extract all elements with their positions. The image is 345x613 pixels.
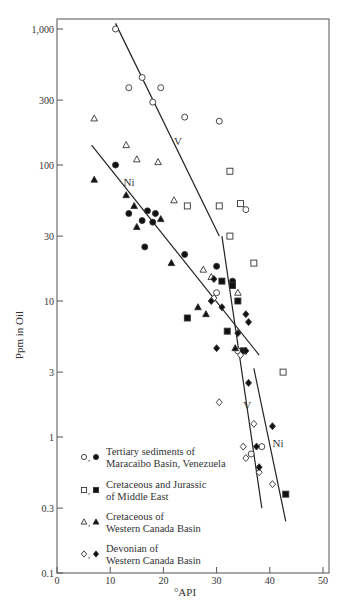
square-marker xyxy=(216,203,222,209)
triangle-marker xyxy=(123,142,130,148)
circle-marker xyxy=(182,251,188,257)
triangle-marker xyxy=(203,311,210,317)
circle-marker xyxy=(81,454,86,459)
circle-marker xyxy=(126,85,132,91)
triangle-marker xyxy=(93,519,99,524)
diamond-marker xyxy=(243,455,249,462)
circle-marker xyxy=(142,244,148,250)
legend: ,Tertiary sediments ofMaracaibo Basin, V… xyxy=(81,446,226,566)
y-tick-label: 1,000 xyxy=(32,24,55,35)
trend-label: Ni xyxy=(272,437,283,449)
circle-marker xyxy=(248,451,254,457)
y-tick-label: 30 xyxy=(44,231,54,242)
triangle-marker xyxy=(235,289,242,295)
circle-marker xyxy=(150,99,156,105)
square-marker xyxy=(219,278,225,284)
diamond-marker xyxy=(219,304,225,311)
triangle-marker xyxy=(91,176,98,182)
square-marker xyxy=(81,487,86,492)
square-marker xyxy=(227,233,233,239)
diamond-marker xyxy=(243,311,249,318)
svg-text:,: , xyxy=(88,486,90,496)
x-tick-label: 20 xyxy=(158,575,168,586)
diamond-marker xyxy=(93,551,98,557)
square-marker xyxy=(93,487,98,492)
y-tick-label: 100 xyxy=(39,160,54,171)
triangle-marker xyxy=(195,304,202,310)
circle-marker xyxy=(126,210,132,216)
y-axis-label: Ppm in Oil xyxy=(13,311,25,359)
svg-text:,: , xyxy=(88,550,90,560)
svg-text:,: , xyxy=(88,518,90,528)
triangle-marker xyxy=(81,519,87,524)
y-tick-label: 3 xyxy=(49,367,54,378)
diamond-marker xyxy=(254,443,260,450)
triangle-marker xyxy=(157,216,164,222)
trend-label: Ni xyxy=(124,176,135,188)
circle-marker xyxy=(243,207,249,213)
circle-marker xyxy=(150,219,156,225)
diamond-marker xyxy=(251,420,257,427)
square-marker xyxy=(251,260,257,266)
square-marker xyxy=(280,369,286,375)
y-tick-label: 0.1 xyxy=(42,568,55,579)
y-tick-label: 0.3 xyxy=(42,503,55,514)
legend-item: ,Devonian ofWestern Canada Basin xyxy=(81,543,201,566)
trend-label: V xyxy=(174,135,182,147)
legend-label: Western Canada Basin xyxy=(106,523,202,534)
circle-marker xyxy=(144,208,150,214)
triangle-marker xyxy=(123,192,130,198)
triangle-marker xyxy=(134,224,141,230)
square-marker xyxy=(238,201,244,207)
circle-marker xyxy=(93,454,98,459)
square-marker xyxy=(224,328,230,334)
legend-label: Tertiary sediments of xyxy=(106,446,196,457)
diamond-marker xyxy=(256,464,262,471)
trend-line-ni xyxy=(92,145,260,355)
diamond-marker xyxy=(216,399,222,406)
triangle-marker xyxy=(200,266,207,272)
legend-item: ,Cretaceous ofWestern Canada Basin xyxy=(81,511,201,534)
triangle-marker xyxy=(171,197,178,203)
legend-item: ,Tertiary sediments ofMaracaibo Basin, V… xyxy=(81,446,226,469)
circle-marker xyxy=(139,218,145,224)
circle-marker xyxy=(152,210,158,216)
square-marker xyxy=(227,168,233,174)
square-marker xyxy=(184,203,190,209)
square-marker xyxy=(230,283,236,289)
triangle-marker xyxy=(134,156,141,162)
y-axis-ticks: 0.10.31310301003001,000 xyxy=(32,24,64,579)
triangle-marker xyxy=(91,115,98,121)
circle-marker xyxy=(139,74,145,80)
legend-label: Devonian of xyxy=(106,543,159,554)
trend-label: V xyxy=(243,399,251,411)
diamond-marker xyxy=(246,319,252,326)
x-tick-label: 40 xyxy=(265,575,275,586)
y-tick-label: 10 xyxy=(44,296,54,307)
legend-item: ,Cretaceous and Jurassicof Middle East xyxy=(81,479,206,502)
triangle-marker xyxy=(131,202,138,208)
y-tick-label: 1 xyxy=(49,432,54,443)
square-marker xyxy=(235,298,241,304)
data-points xyxy=(91,26,289,497)
diamond-marker xyxy=(269,423,275,430)
legend-label: Cretaceous of xyxy=(106,511,165,522)
api-vs-ppm-scatter-chart: 0.10.31310301003001,000 01020304050 Ppm … xyxy=(0,0,345,613)
square-marker xyxy=(184,315,190,321)
legend-label: Cretaceous and Jurassic xyxy=(106,479,207,490)
trend-line-v xyxy=(116,23,220,236)
x-axis-label: °API xyxy=(174,586,196,598)
triangle-marker xyxy=(168,260,175,266)
trend-line-labels: VNiVNi xyxy=(124,135,284,448)
circle-marker xyxy=(216,118,222,124)
square-marker xyxy=(283,491,289,497)
diamond-marker xyxy=(214,345,220,352)
legend-label: Maracaibo Basin, Venezuela xyxy=(106,458,226,469)
legend-label: of Middle East xyxy=(106,491,168,502)
circle-marker xyxy=(214,263,220,269)
legend-label: Western Canada Basin xyxy=(106,555,202,566)
circle-marker xyxy=(158,85,164,91)
circle-marker xyxy=(113,26,119,32)
y-tick-label: 300 xyxy=(39,95,54,106)
svg-text:,: , xyxy=(88,453,90,463)
